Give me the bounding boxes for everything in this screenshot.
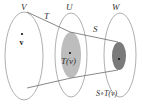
map-T-label: T (44, 11, 50, 21)
space-U-label: U (66, 2, 73, 12)
point-STv-dot (118, 58, 120, 60)
space-V-ellipse (5, 12, 43, 100)
map-T-lower-line (27, 78, 71, 88)
point-Tv-label: T(v) (61, 56, 76, 66)
point-Tv-dot (69, 52, 71, 54)
range-ST-region (112, 42, 126, 70)
space-W-label: W (112, 2, 121, 12)
map-S-label: S (93, 24, 98, 34)
point-v-dot (21, 33, 23, 35)
range-T-region (61, 32, 81, 78)
point-STv-label: S∘T(v) (96, 89, 118, 98)
composition-diagram: V U W T S v T(v) S∘T(v) (0, 0, 143, 111)
space-V-label: V (21, 2, 28, 12)
point-v-label: v (20, 38, 24, 47)
